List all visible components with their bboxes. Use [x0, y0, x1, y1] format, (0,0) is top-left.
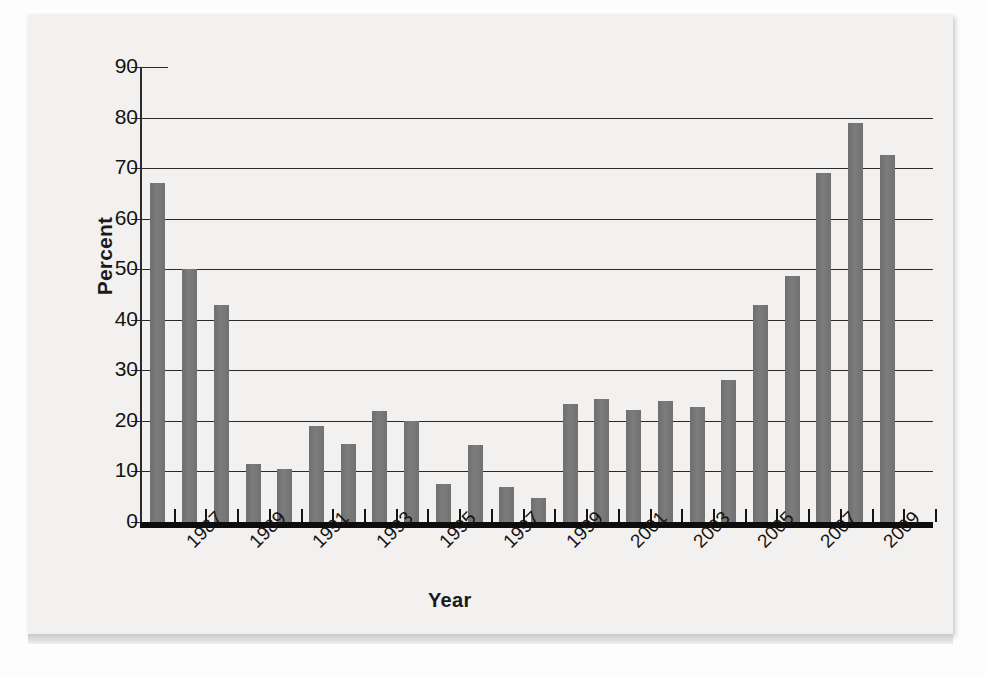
x-tick-2: [237, 509, 239, 522]
gridline-80: [140, 118, 933, 119]
y-tick-label-90: 90: [78, 54, 138, 78]
x-tick-12: [554, 509, 556, 522]
y-tick-label-70: 70: [78, 155, 138, 179]
gridline-60: [140, 219, 933, 220]
x-tick-4: [301, 509, 303, 522]
gridline-20: [140, 421, 933, 422]
x-tick-24: [935, 509, 937, 522]
bar-1997: [499, 487, 514, 522]
bar-1988: [214, 305, 229, 522]
bar-1991: [309, 426, 324, 522]
y-tick-label-40: 40: [78, 307, 138, 331]
x-axis-title: Year: [428, 589, 471, 612]
x-tick-6: [364, 509, 366, 522]
bar-1995: [436, 484, 451, 522]
bar-1986: [150, 183, 165, 522]
gridline-90: [140, 67, 168, 68]
bar-2001: [626, 410, 641, 522]
x-tick-8: [427, 509, 429, 522]
y-tick-label-20: 20: [78, 408, 138, 432]
y-tick-label-10: 10: [78, 458, 138, 482]
plot-area: 0102030405060708090 19871989199119931995…: [140, 67, 933, 522]
bar-1989: [246, 464, 261, 522]
y-tick-label-80: 80: [78, 105, 138, 129]
bar-2008: [848, 123, 863, 522]
bar-1987: [182, 269, 197, 522]
x-tick-14: [618, 509, 620, 522]
x-tick-20: [808, 509, 810, 522]
y-tick-label-60: 60: [78, 206, 138, 230]
gridline-70: [140, 168, 933, 169]
bar-1999: [563, 404, 578, 522]
bar-2009: [880, 155, 895, 522]
bar-2003: [690, 407, 705, 522]
bar-1996: [468, 445, 483, 522]
bar-2000: [594, 399, 609, 522]
x-tick-16: [681, 509, 683, 522]
bar-2005: [753, 305, 768, 522]
bar-2007: [816, 173, 831, 522]
y-axis-line: [140, 67, 142, 522]
bar-2004: [721, 380, 736, 522]
scanned-figure-plate: Percent Year 0102030405060708090 1987198…: [28, 14, 953, 634]
y-tick-label-30: 30: [78, 357, 138, 381]
gridline-30: [140, 370, 933, 371]
gridline-40: [140, 320, 933, 321]
y-tick-label-50: 50: [78, 256, 138, 280]
bar-1992: [341, 444, 356, 522]
x-tick-18: [745, 509, 747, 522]
bar-2006: [785, 276, 800, 522]
bar-1994: [404, 421, 419, 522]
x-tick-10: [491, 509, 493, 522]
bar-chart: Percent Year 0102030405060708090 1987198…: [28, 14, 953, 634]
chart-page: Percent Year 0102030405060708090 1987198…: [0, 0, 987, 677]
x-tick-22: [872, 509, 874, 522]
y-tick-label-0: 0: [78, 509, 138, 533]
bar-2002: [658, 401, 673, 522]
bar-1993: [372, 411, 387, 522]
gridline-50: [140, 269, 933, 270]
x-tick-0: [174, 509, 176, 522]
